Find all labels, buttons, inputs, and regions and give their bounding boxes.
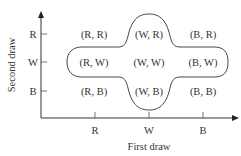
x-axis-arrow-icon	[232, 115, 239, 121]
cell-b-r: (B, R)	[190, 29, 217, 41]
y-axis-arrow-icon	[38, 11, 44, 18]
x-axis-title: First draw	[128, 141, 171, 152]
x-tick-label-r: R	[91, 125, 98, 136]
cell-r-r: (R, R)	[81, 29, 108, 41]
cell-w-w: (W, W)	[134, 57, 165, 69]
x-tick-label-b: B	[199, 125, 206, 136]
y-tick-label-r: R	[29, 29, 36, 40]
cell-r-b: (R, B)	[81, 86, 108, 98]
y-axis-title: Second draw	[6, 37, 17, 92]
sample-space-diagram: R W B R W B First draw Second draw (R, R…	[0, 0, 241, 156]
y-tick-label-w: W	[28, 57, 38, 68]
cell-b-w: (B, W)	[189, 57, 218, 69]
cell-b-b: (B, B)	[190, 86, 217, 98]
cell-w-b: (W, B)	[135, 86, 164, 98]
y-tick-label-b: B	[29, 86, 36, 97]
cell-w-r: (W, R)	[135, 29, 164, 41]
cell-r-w: (R, W)	[80, 57, 109, 69]
x-tick-label-w: W	[144, 125, 154, 136]
